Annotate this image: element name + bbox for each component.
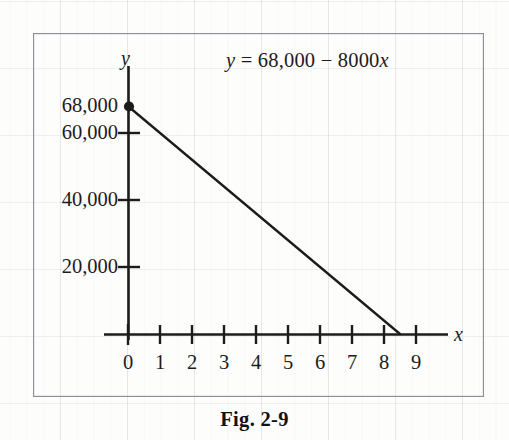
data-line-series-1 — [129, 107, 400, 334]
equation-intercept: 68,000 — [258, 49, 316, 71]
x-tick-label-1: 1 — [142, 352, 178, 373]
x-tick-label-8: 8 — [366, 352, 402, 373]
y-tick-label-60000: 60,000 — [26, 122, 118, 143]
x-tick-label-2: 2 — [174, 352, 210, 373]
figure-2-9: 68,000 60,000 40,000 20,000 0 1 2 3 4 5 … — [0, 0, 509, 440]
equation-annotation: y = 68,000 − 8000x — [226, 50, 389, 71]
x-axis-label: x — [454, 324, 463, 344]
y-axis-label: y — [121, 48, 130, 68]
equation-slope-magnitude: 8000 — [338, 49, 380, 71]
equation-rhs-variable: x — [380, 49, 389, 71]
x-tick-label-9: 9 — [398, 352, 434, 373]
x-tick-label-0: 0 — [110, 352, 146, 373]
x-tick-label-7: 7 — [334, 352, 370, 373]
y-intercept-point-marker — [124, 101, 134, 111]
x-tick-label-3: 3 — [206, 352, 242, 373]
y-tick-label-68000: 68,000 — [26, 95, 118, 116]
x-tick-label-4: 4 — [238, 352, 274, 373]
y-tick-label-20000: 20,000 — [26, 256, 118, 277]
equation-minus: − — [321, 49, 333, 71]
x-tick-label-5: 5 — [270, 352, 306, 373]
equation-lhs-variable: y — [226, 49, 235, 71]
figure-caption: Fig. 2-9 — [0, 408, 509, 431]
x-tick-label-6: 6 — [302, 352, 338, 373]
equation-equals: = — [241, 49, 253, 71]
y-tick-label-40000: 40,000 — [26, 189, 118, 210]
